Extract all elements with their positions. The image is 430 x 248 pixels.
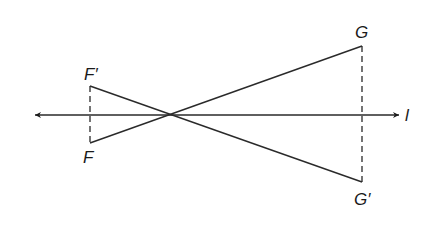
- label-f-prime: F′: [84, 65, 98, 84]
- label-f: F: [83, 148, 95, 167]
- reflection-diagram: F′ F G G′ l: [0, 0, 430, 248]
- segment-fprime-gprime: [90, 86, 362, 182]
- segment-f-g: [90, 46, 362, 143]
- label-g-prime: G′: [354, 190, 371, 209]
- label-g: G: [355, 23, 368, 42]
- label-line-l: l: [405, 106, 410, 125]
